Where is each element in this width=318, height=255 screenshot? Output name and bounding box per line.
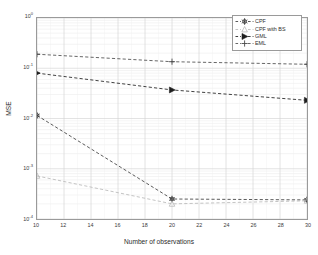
data-point-marker <box>37 70 40 76</box>
legend-item-eml[interactable]: EML <box>235 40 298 47</box>
legend-marker-icon <box>235 18 254 25</box>
legend-marker-icon <box>235 33 254 40</box>
legend-marker-icon <box>235 26 254 33</box>
data-point-marker <box>37 51 40 57</box>
y-tick-label: 10-4 <box>12 217 33 222</box>
y-tick-label: 10-3 <box>12 166 33 171</box>
x-tick-label: 16 <box>115 223 121 228</box>
legend-marker-icon <box>235 40 254 47</box>
x-tick-label: 12 <box>60 223 66 228</box>
x-tick-label: 30 <box>305 223 311 228</box>
x-tick-label: 28 <box>278 223 284 228</box>
series-line-gml <box>37 73 307 100</box>
data-point-marker <box>242 41 248 47</box>
y-tick-label: 100 <box>12 14 33 19</box>
x-tick-label: 10 <box>33 223 39 228</box>
x-tick-label: 24 <box>223 223 229 228</box>
data-point-marker <box>37 112 40 119</box>
x-tick-label: 26 <box>251 223 257 228</box>
x-tick-label: 22 <box>196 223 202 228</box>
y-tick-label: 10-1 <box>12 65 33 70</box>
data-point-marker <box>242 26 248 31</box>
legend-item-label: CPF <box>255 18 266 25</box>
legend-item-gml[interactable]: GML <box>235 33 298 40</box>
y-tick-label: 10-2 <box>12 116 33 121</box>
legend-item-label: EML <box>255 40 266 47</box>
x-tick-label: 18 <box>142 223 148 228</box>
chart-figure: 1012141618202224262830 10010-110-210-310… <box>0 0 318 255</box>
series-line-cpf <box>37 115 307 199</box>
data-point-marker <box>169 59 175 65</box>
data-point-marker <box>242 18 248 25</box>
legend: CPFCPF with BSGMLEML <box>232 15 302 51</box>
data-point-marker <box>304 97 307 103</box>
x-axis-title: Number of observations <box>0 238 318 245</box>
data-point-marker <box>169 87 175 93</box>
y-axis-title: MSE <box>5 89 12 129</box>
x-tick-label: 20 <box>169 223 175 228</box>
legend-item-cpf-with-bs[interactable]: CPF with BS <box>235 25 298 32</box>
legend-item-label: CPF with BS <box>255 26 286 33</box>
legend-item-cpf[interactable]: CPF <box>235 18 298 25</box>
x-tick-label: 14 <box>87 223 93 228</box>
legend-item-label: GML <box>255 33 267 40</box>
data-point-marker <box>304 61 307 67</box>
data-point-marker <box>242 33 248 39</box>
